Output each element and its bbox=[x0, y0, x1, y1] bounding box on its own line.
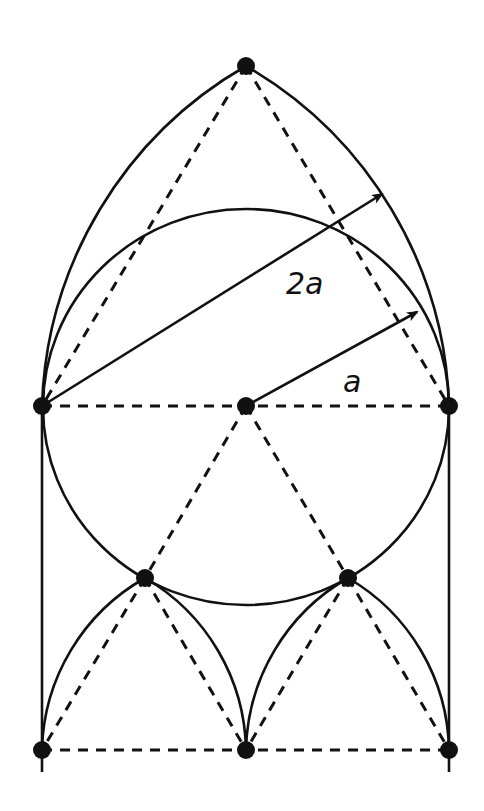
point-bottom-center bbox=[237, 741, 255, 759]
radius-a-arrow bbox=[246, 312, 417, 406]
point-bottom-left bbox=[33, 741, 51, 759]
point-lower-right bbox=[339, 569, 357, 587]
point-left-mid bbox=[33, 397, 51, 415]
dash-lowerright-br bbox=[348, 578, 449, 750]
point-right-mid bbox=[440, 397, 458, 415]
dash-center-lowerright bbox=[246, 406, 348, 578]
arch-diagram bbox=[0, 0, 484, 811]
point-apex bbox=[237, 57, 255, 75]
radius-2a-arrow bbox=[42, 194, 382, 406]
diagram-canvas: 2a a bbox=[0, 0, 484, 811]
point-lower-left bbox=[136, 569, 154, 587]
dash-center-lowerleft bbox=[145, 406, 246, 578]
point-center bbox=[237, 397, 255, 415]
label-a: a bbox=[343, 364, 361, 399]
label-2a: 2a bbox=[286, 266, 323, 301]
dash-lowerleft-bl bbox=[42, 578, 145, 750]
point-bottom-right bbox=[440, 741, 458, 759]
dash-apex-left bbox=[42, 66, 246, 406]
